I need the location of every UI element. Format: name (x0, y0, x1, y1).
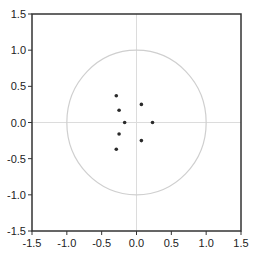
data-point (114, 94, 118, 98)
data-point (140, 103, 144, 107)
x-tick-label: -1.0 (57, 237, 76, 249)
y-axis-ticks: 1.51.00.50.0-0.5-1.0-1.5 (7, 8, 32, 237)
data-point (123, 121, 127, 125)
x-axis-ticks: -1.5-1.0-0.50.00.51.01.5 (23, 231, 249, 249)
x-tick-label: 1.0 (199, 237, 214, 249)
data-point (117, 132, 121, 136)
data-point (114, 147, 118, 151)
x-tick-label: 0.5 (164, 237, 179, 249)
data-point (117, 108, 121, 112)
y-tick-label: 0.0 (11, 117, 26, 129)
x-tick-label: -0.5 (92, 237, 111, 249)
y-tick-label: -0.5 (7, 153, 26, 165)
x-tick-label: 0.0 (129, 237, 144, 249)
data-point (151, 121, 155, 125)
x-tick-label: 1.5 (233, 237, 248, 249)
unit-circle-scatter-chart: -1.5-1.0-0.50.00.51.01.5 1.51.00.50.0-0.… (0, 0, 255, 258)
y-tick-label: 0.5 (11, 80, 26, 92)
y-tick-label: 1.0 (11, 44, 26, 56)
y-tick-label: -1.0 (7, 189, 26, 201)
reference-lines (32, 14, 241, 231)
x-tick-label: -1.5 (23, 237, 42, 249)
y-tick-label: -1.5 (7, 225, 26, 237)
y-tick-label: 1.5 (11, 8, 26, 20)
data-point (140, 139, 144, 143)
